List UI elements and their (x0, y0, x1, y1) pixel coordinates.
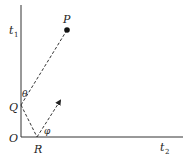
t2-axis-label: t 2 (160, 141, 169, 156)
origin-label: O (9, 132, 18, 145)
point-q-label: Q (9, 101, 18, 114)
svg-text:1: 1 (14, 31, 18, 39)
theta-label: θ (22, 89, 28, 99)
line-q-to-r (21, 105, 37, 137)
point-p-dot (64, 27, 70, 33)
spacetime-diagram: P Q R O θ φ t 1 t 2 (0, 0, 191, 158)
line-q-to-p (21, 30, 67, 105)
point-p-label: P (62, 13, 71, 26)
point-r-label: R (33, 143, 42, 156)
phi-label: φ (44, 126, 51, 136)
svg-text:2: 2 (165, 148, 169, 156)
t1-axis-label: t 1 (9, 24, 18, 39)
